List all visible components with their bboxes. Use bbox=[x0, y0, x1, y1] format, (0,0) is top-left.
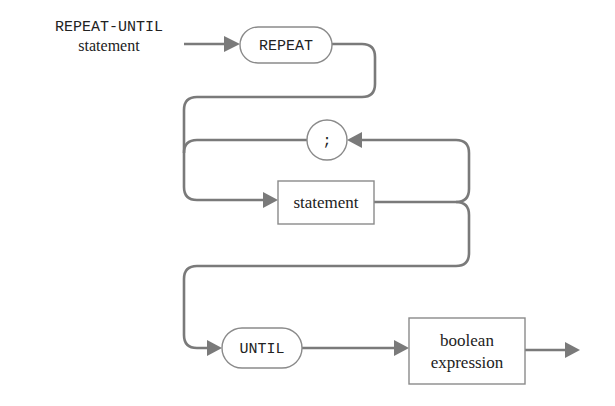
node-boolean-expression-label-line1: boolean bbox=[440, 331, 494, 350]
node-until: UNTIL bbox=[222, 328, 302, 368]
node-repeat: REPEAT bbox=[240, 27, 332, 63]
node-semicolon-label: ; bbox=[322, 133, 331, 150]
node-statement: statement bbox=[278, 181, 374, 224]
node-until-label: UNTIL bbox=[239, 341, 284, 358]
diagram-title-keyword: REPEAT-UNTIL bbox=[55, 19, 163, 36]
arrow-right-icon bbox=[565, 342, 580, 358]
node-boolean-expression-label-line2: expression bbox=[431, 353, 504, 372]
arrow-right-icon bbox=[263, 192, 278, 208]
entry-connector bbox=[184, 36, 240, 52]
arrow-left-icon bbox=[347, 132, 362, 148]
node-semicolon: ; bbox=[307, 120, 347, 160]
node-repeat-label: REPEAT bbox=[259, 38, 313, 55]
diagram-title-subtitle: statement bbox=[78, 37, 140, 54]
arrow-right-icon bbox=[224, 36, 240, 52]
arrow-right-icon bbox=[394, 340, 409, 356]
node-boolean-expression: boolean expression bbox=[409, 318, 525, 384]
semicolon-to-statement-connector bbox=[184, 140, 307, 153]
exit-connector bbox=[525, 342, 580, 358]
arrow-right-icon bbox=[207, 340, 222, 356]
node-statement-label: statement bbox=[293, 193, 358, 212]
repeat-until-syntax-diagram: REPEAT-UNTIL statement REPEAT bbox=[0, 0, 615, 406]
until-to-boolean-connector bbox=[302, 340, 409, 356]
